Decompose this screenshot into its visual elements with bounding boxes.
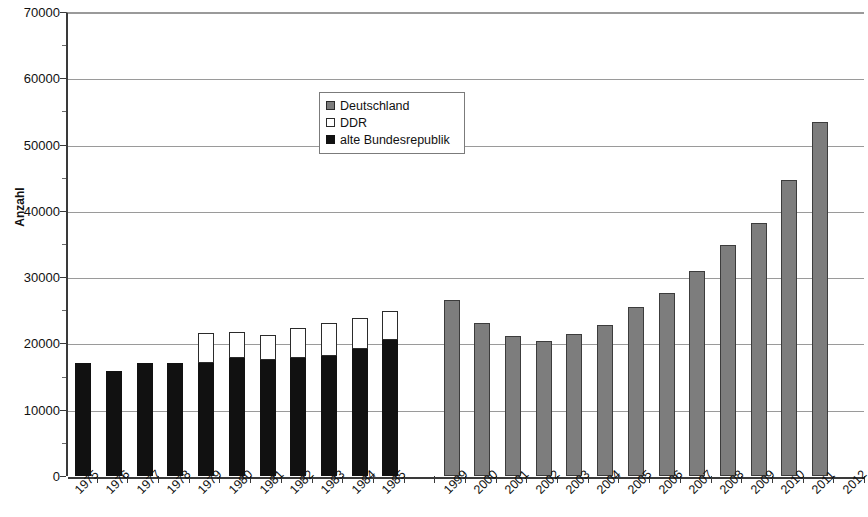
- bar-segment-gray: [689, 271, 705, 476]
- bar-2000: [474, 12, 490, 476]
- bar-1977: [137, 12, 153, 476]
- bar-segment-gray: [628, 307, 644, 476]
- bar-segment-gray: [597, 325, 613, 476]
- legend-label-deutschland: Deutschland: [340, 99, 410, 113]
- bar-1976: [106, 12, 122, 476]
- bar-segment-black: [198, 363, 214, 476]
- bar-2009: [751, 12, 767, 476]
- bar-segment-black: [106, 371, 122, 476]
- y-tick-label: 0: [4, 469, 60, 484]
- gridline: [68, 411, 864, 412]
- x-tick-mark: [434, 476, 435, 483]
- bar-1980: [229, 12, 245, 476]
- legend-swatch-deutschland: [326, 101, 335, 110]
- legend-item-deutschland: Deutschland: [326, 97, 459, 114]
- bar-segment-white: [321, 323, 337, 356]
- bar-1979: [198, 12, 214, 476]
- gridline: [68, 13, 864, 14]
- bar-segment-gray: [720, 245, 736, 476]
- bar-1983: [321, 12, 337, 476]
- gridline: [68, 344, 864, 345]
- bar-segment-gray: [659, 293, 675, 476]
- bar-segment-black: [290, 358, 306, 476]
- y-tick-label: 10000: [4, 402, 60, 417]
- legend-label-alte-bundesrepublik: alte Bundesrepublik: [340, 133, 450, 147]
- bar-segment-black: [382, 340, 398, 476]
- bar-chart: Anzahl 700006000050000400003000020000100…: [0, 0, 868, 517]
- y-tick-label: 30000: [4, 270, 60, 285]
- bar-2007: [689, 12, 705, 476]
- bar-1975: [75, 12, 91, 476]
- legend-item-alte-bundesrepublik: alte Bundesrepublik: [326, 131, 459, 148]
- legend-label-ddr: DDR: [340, 116, 367, 130]
- y-tick-label: 20000: [4, 336, 60, 351]
- bar-segment-white: [260, 335, 276, 360]
- y-tick-label: 40000: [4, 203, 60, 218]
- bar-segment-black: [75, 363, 91, 476]
- bar-segment-gray: [444, 300, 460, 476]
- bar-1985: [382, 12, 398, 476]
- bar-segment-white: [290, 328, 306, 358]
- bar-2006: [659, 12, 675, 476]
- bar-2001: [505, 12, 521, 476]
- bar-1999: [444, 12, 460, 476]
- gridline: [68, 79, 864, 80]
- bar-segment-gray: [474, 323, 490, 476]
- y-tick-label: 50000: [4, 137, 60, 152]
- bar-2010: [781, 12, 797, 476]
- bar-segment-gray: [566, 334, 582, 476]
- bar-segment-black: [260, 360, 276, 476]
- chart-legend: Deutschland DDR alte Bundesrepublik: [319, 92, 465, 154]
- legend-item-ddr: DDR: [326, 114, 459, 131]
- gridline: [68, 212, 864, 213]
- bar-segment-black: [321, 356, 337, 476]
- bar-2011: [812, 12, 828, 476]
- bar-segment-black: [137, 363, 153, 476]
- bar-segment-black: [167, 363, 183, 476]
- bar-segment-gray: [505, 336, 521, 476]
- bar-1978: [167, 12, 183, 476]
- plot-inner: [68, 13, 864, 476]
- bar-2002: [536, 12, 552, 476]
- bar-1982: [290, 12, 306, 476]
- legend-swatch-ddr: [326, 118, 335, 127]
- bar-2004: [597, 12, 613, 476]
- bar-1984: [352, 12, 368, 476]
- gridline: [68, 146, 864, 147]
- y-tick-label: 70000: [4, 5, 60, 20]
- bar-1981: [260, 12, 276, 476]
- bar-segment-gray: [781, 180, 797, 476]
- y-tick-mark: [60, 476, 66, 477]
- bar-segment-white: [352, 318, 368, 348]
- gridline: [68, 278, 864, 279]
- bar-segment-black: [229, 358, 245, 476]
- bar-2003: [566, 12, 582, 476]
- bar-segment-gray: [751, 223, 767, 476]
- bar-2008: [720, 12, 736, 476]
- bar-segment-white: [229, 332, 245, 358]
- bar-2005: [628, 12, 644, 476]
- y-tick-label: 60000: [4, 71, 60, 86]
- legend-swatch-alte-bundesrepublik: [326, 135, 335, 144]
- bar-segment-white: [198, 333, 214, 363]
- bar-segment-gray: [536, 341, 552, 476]
- bar-segment-black: [352, 349, 368, 476]
- bar-segment-gray: [812, 122, 828, 476]
- plot-area: Deutschland DDR alte Bundesrepublik: [66, 12, 864, 476]
- bar-segment-white: [382, 311, 398, 340]
